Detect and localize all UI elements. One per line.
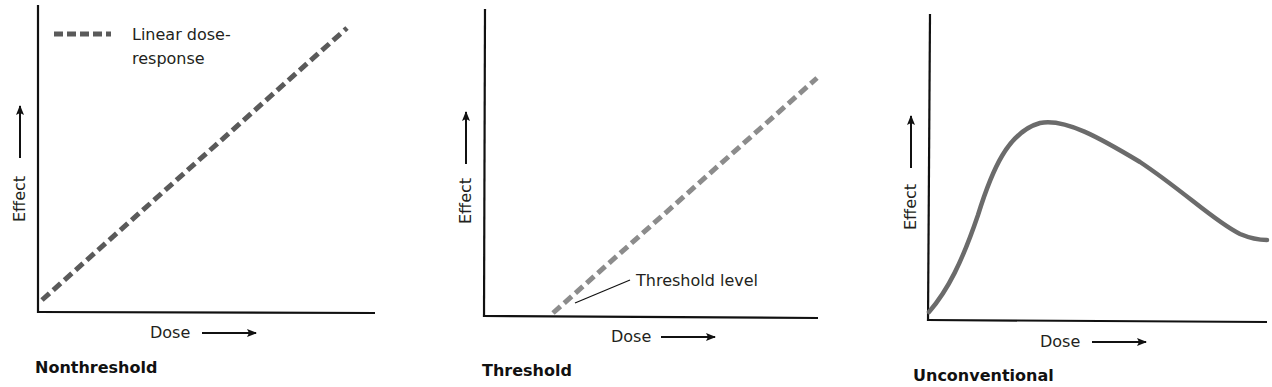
x-axis [37, 312, 375, 313]
y-axis-label: Effect [901, 184, 920, 230]
unconventional-response-curve [929, 122, 1267, 312]
x-axis-label: Dose [150, 323, 190, 342]
x-axis-label: Dose [1040, 332, 1080, 351]
y-axis-label: Effect [456, 178, 475, 224]
y-axis [928, 14, 930, 321]
panel-title: Threshold [482, 361, 572, 380]
x-axis-label: Dose [611, 327, 651, 346]
panel-title: Nonthreshold [35, 358, 157, 377]
panel-threshold: Threshold level Effect Dose Threshold [456, 9, 818, 380]
legend-label-line1: Linear dose- [132, 25, 231, 44]
panel-unconventional: Effect Dose Unconventional [901, 14, 1267, 385]
dose-response-figure: Linear dose- response Effect Dose Nonthr… [0, 0, 1272, 387]
panel-title: Unconventional [913, 366, 1054, 385]
threshold-level-annotation: Threshold level [635, 271, 758, 290]
x-axis [927, 320, 1267, 322]
legend-label-line2: response [132, 49, 205, 68]
x-axis [483, 316, 818, 318]
threshold-leader-line [575, 280, 630, 303]
linear-dose-response-line [42, 28, 347, 300]
panel-nonthreshold: Linear dose- response Effect Dose Nonthr… [10, 5, 375, 377]
y-axis [484, 9, 485, 317]
y-axis-label: Effect [10, 176, 29, 222]
